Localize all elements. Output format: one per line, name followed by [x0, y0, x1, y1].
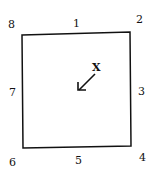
label-6: 6 [9, 157, 16, 168]
label-4: 4 [139, 152, 146, 163]
label-x: X [92, 62, 101, 73]
label-1: 1 [73, 18, 80, 29]
label-8: 8 [8, 19, 15, 30]
label-5: 5 [75, 155, 82, 166]
arrow-down-left-icon [78, 74, 95, 90]
label-3: 3 [138, 86, 145, 97]
square [22, 32, 131, 148]
label-7: 7 [9, 87, 16, 98]
label-2: 2 [136, 14, 143, 25]
